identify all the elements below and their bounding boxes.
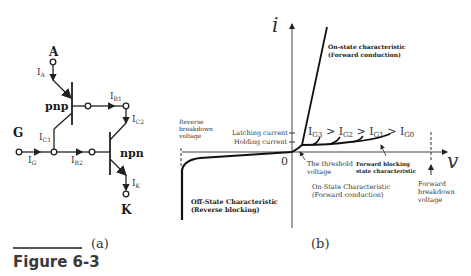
anode-terminal	[50, 59, 56, 65]
panel-a-label: (a)	[91, 236, 109, 251]
threshold-pointer	[300, 152, 305, 160]
gate-label: G	[13, 126, 23, 140]
ia-label: IA	[37, 67, 46, 78]
ik-label: IK	[132, 178, 141, 189]
pnp-label: pnp	[45, 100, 69, 113]
node-gate-junction	[51, 149, 57, 155]
forward-breakdown-label: Forward breakdown voltage	[417, 180, 457, 204]
threshold-voltage-label: The threshold voltage	[306, 160, 355, 176]
node-pnp-base	[85, 103, 91, 109]
figure-canvas: A IA pnp IB1 IC2 G IC1 IG IB2 npn IK K (…	[0, 0, 471, 276]
on-state-bottom-label: On-State Characteristic (Forward conduct…	[312, 183, 392, 199]
forward-blocking-label: Forward blocking state characteristic	[356, 161, 417, 174]
node-npn-collector	[123, 103, 129, 109]
cathode-label: K	[121, 203, 132, 217]
ib2-label: IB2	[71, 155, 83, 166]
ig-label: IG	[28, 155, 37, 166]
x-axis-label: v	[447, 149, 459, 173]
two-transistor-circuit	[16, 59, 129, 197]
panel-b-label: (b)	[311, 236, 329, 251]
gate-current-order: IG3 > IG2 > IG1 > IG0	[308, 125, 414, 140]
figure-caption: Figure 6-3	[13, 253, 100, 271]
on-state-top-label: On-state characteristic (Forward conduct…	[328, 43, 408, 58]
npn-emitter	[110, 159, 126, 175]
npn-label: npn	[120, 147, 144, 160]
pnp-emitter	[53, 80, 71, 98]
anode-label: A	[48, 45, 59, 59]
caption-rule	[13, 247, 82, 249]
origin-label: 0	[281, 155, 288, 168]
reverse-breakdown-label: Reverse breakdown voltage	[178, 118, 215, 140]
cathode-terminal	[123, 191, 129, 197]
pnp-collector	[54, 113, 72, 129]
gate-terminal	[16, 149, 22, 155]
holding-current-label: Holding current	[234, 138, 287, 146]
latching-current-label: Latching current	[232, 129, 288, 137]
ic1-label: IC1	[39, 132, 51, 143]
ib1-label: IB1	[110, 91, 122, 102]
npn-collector	[110, 123, 126, 140]
forward-blocking-pointer	[381, 145, 386, 156]
node-npn-base	[89, 149, 95, 155]
ic2-label: IC2	[132, 114, 144, 125]
off-state-label: Off-State Characteristic (Reverse blocki…	[191, 198, 280, 214]
y-axis-label: i	[272, 13, 278, 37]
